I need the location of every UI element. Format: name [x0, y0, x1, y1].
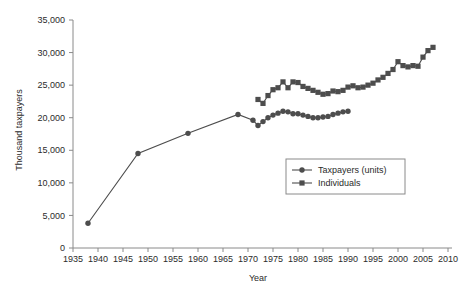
legend-label: Taxpayers (units)	[318, 165, 387, 175]
series-marker	[275, 85, 280, 90]
line-chart: 05,00010,00015,00020,00025,00030,00035,0…	[0, 0, 470, 287]
x-axis-tick-label: 2000	[388, 254, 408, 264]
series-marker	[355, 85, 360, 90]
series-marker	[380, 75, 385, 80]
y-axis-tick-label: 20,000	[37, 113, 65, 123]
series-marker	[375, 77, 380, 82]
y-axis-tick-label: 10,000	[37, 178, 65, 188]
y-axis-title: Thousand taxpayers	[14, 89, 24, 171]
series-marker	[360, 84, 365, 89]
y-axis-tick-label: 35,000	[37, 15, 65, 25]
series-marker	[285, 109, 290, 114]
series-marker	[405, 64, 410, 69]
series-marker	[290, 79, 295, 84]
legend-label: Individuals	[318, 178, 361, 188]
series-marker	[330, 112, 335, 117]
x-axis-tick-label: 1950	[138, 254, 158, 264]
series-marker	[335, 89, 340, 94]
series-marker	[285, 85, 290, 90]
series-marker	[350, 83, 355, 88]
x-axis-tick-label: 1980	[288, 254, 308, 264]
series-marker	[265, 93, 270, 98]
series-marker	[255, 97, 260, 102]
series-marker	[345, 109, 350, 114]
series-marker	[300, 84, 305, 89]
series-marker	[270, 87, 275, 92]
series-marker	[370, 81, 375, 86]
series-marker	[300, 112, 305, 117]
series-marker	[280, 79, 285, 84]
series-marker	[290, 111, 295, 116]
x-axis-tick-label: 1995	[363, 254, 383, 264]
series-marker	[415, 64, 420, 69]
series-marker	[325, 91, 330, 96]
x-axis-tick-label: 1945	[113, 254, 133, 264]
x-axis-tick-label: 2005	[413, 254, 433, 264]
series-marker	[330, 88, 335, 93]
y-axis-tick-label: 0	[60, 243, 65, 253]
chart-legend: Taxpayers (units)Individuals	[286, 159, 405, 194]
series-marker	[250, 118, 255, 123]
series-marker	[275, 110, 280, 115]
x-axis-tick-label: 1935	[63, 254, 83, 264]
series-marker	[260, 101, 265, 106]
series-marker	[85, 221, 90, 226]
series-marker	[385, 71, 390, 76]
series-marker	[410, 63, 415, 68]
series-marker	[255, 123, 260, 128]
series-marker	[185, 131, 190, 136]
series-marker	[305, 86, 310, 91]
series-marker	[270, 112, 275, 117]
x-axis-tick-label: 2010	[438, 254, 458, 264]
series-marker	[420, 55, 425, 60]
series-marker	[425, 48, 430, 53]
series-marker	[390, 67, 395, 72]
x-axis-tick-label: 1990	[338, 254, 358, 264]
series-marker	[260, 119, 265, 124]
x-axis-title: Year	[249, 273, 267, 283]
y-axis-tick-label: 5,000	[42, 211, 65, 221]
series-marker	[295, 111, 300, 116]
x-axis-tick-label: 1955	[163, 254, 183, 264]
series-marker	[430, 45, 435, 50]
series-marker	[235, 112, 240, 117]
x-axis-tick-label: 1965	[213, 254, 233, 264]
chart-background	[0, 0, 470, 287]
chart-container: 05,00010,00015,00020,00025,00030,00035,0…	[0, 0, 470, 287]
series-marker	[320, 92, 325, 97]
series-marker	[310, 88, 315, 93]
y-axis-tick-label: 25,000	[37, 80, 65, 90]
x-axis-tick-label: 1940	[88, 254, 108, 264]
series-marker	[345, 84, 350, 89]
x-axis-tick-label: 1960	[188, 254, 208, 264]
x-axis-tick-label: 1985	[313, 254, 333, 264]
series-marker	[265, 115, 270, 120]
series-marker	[335, 110, 340, 115]
series-marker	[310, 115, 315, 120]
series-marker	[340, 88, 345, 93]
x-axis-tick-label: 1975	[263, 254, 283, 264]
series-marker	[340, 109, 345, 114]
y-axis-tick-label: 15,000	[37, 145, 65, 155]
series-marker	[135, 151, 140, 156]
series-marker	[325, 114, 330, 119]
x-axis-tick-label: 1970	[238, 254, 258, 264]
series-marker	[395, 59, 400, 64]
legend-marker	[299, 167, 304, 172]
series-marker	[400, 63, 405, 68]
legend-marker	[299, 180, 304, 185]
series-marker	[315, 115, 320, 120]
series-marker	[305, 114, 310, 119]
y-axis-tick-label: 30,000	[37, 48, 65, 58]
series-marker	[320, 114, 325, 119]
series-marker	[295, 80, 300, 85]
series-marker	[365, 83, 370, 88]
series-marker	[280, 109, 285, 114]
series-marker	[315, 90, 320, 95]
